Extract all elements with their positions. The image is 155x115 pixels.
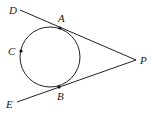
- tangent-line-dp: [20, 10, 136, 60]
- point-b-dot: [57, 85, 60, 88]
- label-d: D: [8, 4, 17, 16]
- label-c: C: [8, 45, 16, 57]
- point-a-dot: [58, 26, 61, 29]
- label-b: B: [57, 90, 64, 102]
- circle: [20, 27, 80, 87]
- label-a: A: [57, 12, 65, 24]
- tangent-diagram: D A C P B E: [0, 0, 155, 115]
- tangent-line-ep: [17, 60, 136, 102]
- label-e: E: [5, 98, 13, 110]
- point-c-dot: [19, 49, 22, 52]
- label-p: P: [139, 54, 147, 66]
- diagram-canvas: D A C P B E: [0, 0, 155, 115]
